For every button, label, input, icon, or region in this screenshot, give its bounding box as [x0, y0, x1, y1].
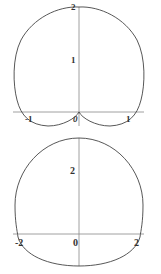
top-y-tick-1: 1	[71, 56, 76, 65]
bottom-x-tick-2: 2	[134, 238, 139, 248]
bottom-x-tick-0: 0	[73, 238, 78, 248]
plots-canvas	[0, 0, 161, 274]
bottom-x-tick-neg2: -2	[15, 238, 23, 248]
bottom-y-tick-2: 2	[70, 166, 75, 176]
top-y-tick-2: 2	[71, 3, 76, 12]
top-x-tick-1: 1	[126, 115, 131, 124]
top-x-tick-0: 0	[73, 115, 78, 124]
top-x-tick-neg1: -1	[25, 115, 33, 124]
